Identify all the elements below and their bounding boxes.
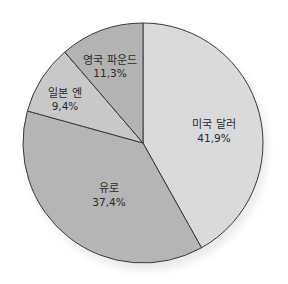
- slice-value-jpy: 9,4%: [52, 100, 79, 112]
- slice-label-eur: 유로: [99, 182, 119, 195]
- slice-value-gbp: 11,3%: [93, 67, 126, 79]
- slice-label-gbp: 영국 파운드: [83, 54, 137, 67]
- slice-value-eur: 37,4%: [92, 196, 125, 208]
- slice-value-usd: 41,9%: [197, 132, 230, 144]
- slice-label-usd: 미국 달러: [192, 118, 236, 131]
- pie-chart: 미국 달러 41,9% 유로 37,4% 일본 엔 9,4% 영국 파운드 11…: [0, 0, 288, 284]
- pie-chart-canvas: 미국 달러 41,9% 유로 37,4% 일본 엔 9,4% 영국 파운드 11…: [0, 0, 288, 284]
- slice-label-jpy: 일본 엔: [48, 86, 82, 100]
